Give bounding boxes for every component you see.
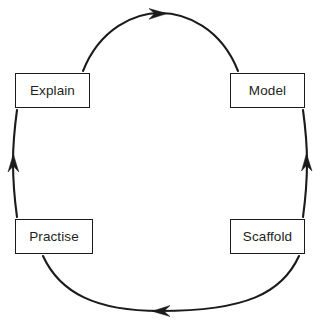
arc-path-explain-to-model xyxy=(83,13,238,71)
cycle-diagram: Explain Model Scaffold Practise xyxy=(0,0,321,325)
node-model-label: Model xyxy=(249,84,286,98)
arc-scaffold-to-practise xyxy=(43,256,299,317)
cycle-arrows-svg xyxy=(0,0,321,325)
arc-path-scaffold-to-practise xyxy=(43,256,299,311)
node-scaffold-label: Scaffold xyxy=(243,230,292,244)
node-model[interactable]: Model xyxy=(230,73,305,108)
node-explain[interactable]: Explain xyxy=(15,73,90,108)
arc-explain-to-model xyxy=(83,9,238,72)
node-practise[interactable]: Practise xyxy=(15,219,93,254)
node-scaffold[interactable]: Scaffold xyxy=(230,219,305,254)
node-explain-label: Explain xyxy=(30,84,75,98)
arc-practise-to-explain xyxy=(8,110,19,217)
node-practise-label: Practise xyxy=(29,230,79,244)
arc-model-to-scaffold xyxy=(302,110,313,217)
